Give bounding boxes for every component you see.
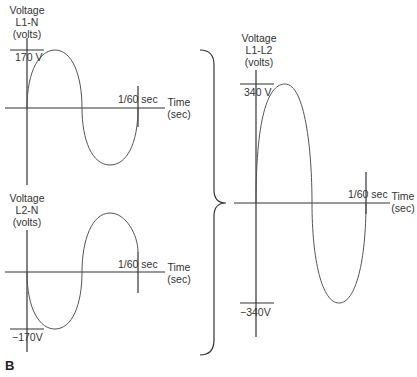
xlabel-line: (sec) [162,108,196,120]
ylabel-line: Voltage [4,4,50,16]
xlabel-l1l2: Time (sec) [387,190,417,214]
ylabel-l1l2: Voltage L1-L2 (volts) [236,32,282,68]
xlabel-l1n: Time (sec) [162,96,196,120]
ylabel-l1n: Voltage L1-N (volts) [4,4,50,40]
ylabel-l2n: Voltage L2-N (volts) [4,192,50,228]
figure-label: B [5,358,14,373]
peak-label: 170 V [15,51,42,63]
plot-l1l2 [234,70,390,337]
trough-label: −340V [240,306,271,318]
xlabel-line: (sec) [387,202,417,214]
brace [200,50,226,355]
ylabel-line: Voltage [4,192,50,204]
peak-label: 340 V [244,86,271,98]
xlabel-l2n: Time (sec) [162,261,196,285]
ylabel-line: (volts) [4,28,50,40]
sine-wave [27,213,138,329]
ylabel-line: (volts) [236,56,282,68]
period-label: 1/60 sec [348,188,388,200]
ylabel-line: L1-L2 [236,44,282,56]
xlabel-line: Time [162,96,196,108]
period-label: 1/60 sec [118,258,158,270]
period-label: 1/60 sec [118,93,158,105]
ylabel-line: Voltage [236,32,282,44]
ylabel-line: L2-N [4,204,50,216]
trough-label: −170V [12,331,43,343]
ylabel-line: (volts) [4,216,50,228]
ylabel-line: L1-N [4,16,50,28]
xlabel-line: (sec) [162,273,196,285]
xlabel-line: Time [387,190,417,202]
xlabel-line: Time [162,261,196,273]
